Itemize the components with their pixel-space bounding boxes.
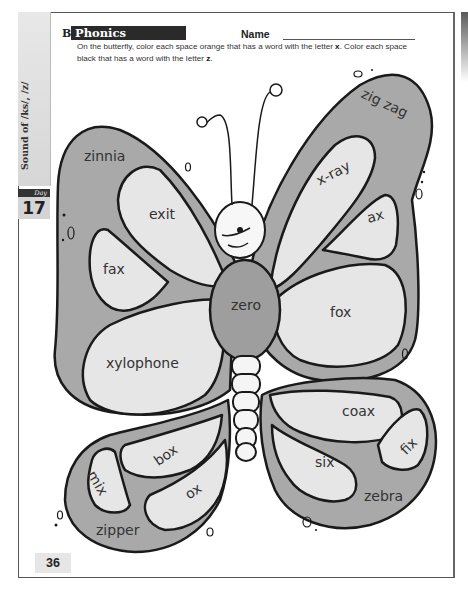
- word-fax[interactable]: fax: [103, 261, 125, 277]
- word-six[interactable]: six: [315, 454, 334, 470]
- word-exit[interactable]: exit: [149, 206, 175, 222]
- word-xylophone[interactable]: xylophone: [106, 355, 179, 371]
- word-zipper[interactable]: zipper: [96, 522, 139, 538]
- word-zebra[interactable]: zebra: [364, 488, 403, 504]
- word-coax[interactable]: coax: [342, 403, 375, 419]
- page-number: 36: [35, 553, 71, 573]
- word-fox[interactable]: fox: [330, 304, 351, 320]
- word-zinnia[interactable]: zinnia: [84, 148, 125, 164]
- word-zero[interactable]: zero: [231, 297, 261, 313]
- antenna-left: [205, 115, 232, 205]
